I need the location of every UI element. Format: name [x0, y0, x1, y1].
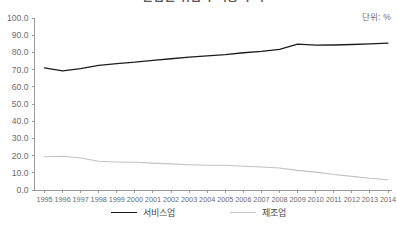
line-chart-plot: 0.010.020.030.040.050.060.070.080.090.01… [0, 0, 397, 205]
y-axis: 0.010.020.030.040.050.060.070.080.090.01… [7, 13, 35, 195]
x-tick-label: 2014 [380, 195, 396, 204]
legend-swatch-icon [230, 212, 256, 213]
legend-item-services[interactable]: 서비스업 [111, 206, 176, 219]
x-tick-label: 2001 [145, 195, 161, 204]
y-tick-label: 30.0 [12, 133, 29, 143]
series-layer [45, 43, 389, 180]
x-tick-label: 2010 [308, 195, 324, 204]
x-tick-label: 2013 [362, 195, 378, 204]
x-tick-label: 2009 [289, 195, 305, 204]
x-tick-label: 1999 [109, 195, 125, 204]
y-tick-label: 50.0 [12, 99, 29, 109]
y-tick-label: 70.0 [12, 65, 29, 75]
y-tick-label: 80.0 [12, 47, 29, 57]
x-tick-label: 2006 [235, 195, 251, 204]
x-tick-label: 1997 [73, 195, 89, 204]
x-tick-label: 2005 [217, 195, 233, 204]
legend-swatch-icon [111, 212, 137, 213]
y-tick-label: 10.0 [12, 168, 29, 178]
legend-item-manufacturing[interactable]: 제조업 [230, 206, 287, 219]
x-tick-label: 1998 [91, 195, 107, 204]
y-tick-label: 20.0 [12, 151, 29, 161]
x-axis: 1995199619971998199920002001200220032004… [35, 190, 397, 204]
x-tick-label: 2007 [253, 195, 269, 204]
y-tick-label: 40.0 [12, 116, 29, 126]
x-tick-label: 2004 [199, 195, 215, 204]
legend: 서비스업제조업 [0, 206, 397, 219]
series-line-primary [45, 43, 389, 71]
x-tick-label: 1995 [36, 195, 52, 204]
y-tick-label: 0.0 [17, 185, 29, 195]
x-tick-label: 1996 [54, 195, 70, 204]
y-tick-label: 60.0 [12, 82, 29, 92]
legend-label: 제조업 [262, 206, 287, 219]
x-tick-label: 2011 [326, 195, 342, 204]
x-tick-label: 2003 [181, 195, 197, 204]
y-tick-label: 100.0 [7, 13, 29, 23]
chart-page: 산업별 취업자 비중 추이 단위: % 0.010.020.030.040.05… [0, 0, 397, 228]
series-line-secondary [45, 156, 389, 179]
x-tick-label: 2012 [344, 195, 360, 204]
y-tick-label: 90.0 [12, 30, 29, 40]
x-tick-label: 2000 [127, 195, 143, 204]
x-tick-label: 2008 [271, 195, 287, 204]
legend-label: 서비스업 [143, 206, 176, 219]
x-tick-label: 2002 [163, 195, 179, 204]
